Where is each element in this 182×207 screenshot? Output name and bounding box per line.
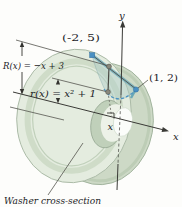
point-marker-1-2	[133, 87, 138, 92]
washer-cross-section-figure: (-2, 5) (1, 2) R(x) = −x + 3 r(x) = x² +…	[0, 0, 182, 207]
y-axis-label: y	[118, 10, 125, 21]
x-axis-arrowhead	[162, 127, 170, 134]
inner-radius-label: r(x) = x² + 1	[30, 88, 96, 99]
outer-radius-label: R(x) = −x + 3	[2, 60, 64, 71]
radius-point-top	[107, 64, 112, 69]
point-label-neg2-5: (-2, 5)	[62, 32, 100, 43]
x-axis-label: x	[173, 131, 179, 142]
sample-x-label: x	[108, 121, 114, 132]
figure-caption: Washer cross-section	[4, 195, 101, 206]
figure-canvas: (-2, 5) (1, 2) R(x) = −x + 3 r(x) = x² +…	[0, 0, 182, 207]
y-axis-arrowhead	[120, 21, 125, 28]
point-label-1-2: (1, 2)	[149, 72, 178, 83]
radius-point-bottom	[106, 90, 111, 95]
point-marker-neg2-5	[90, 53, 95, 58]
